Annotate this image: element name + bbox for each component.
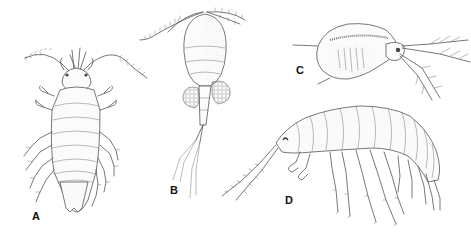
panel-label-a: A: [32, 211, 40, 222]
cladoceran-drawing: [293, 24, 470, 100]
copepod-drawing: [140, 8, 245, 198]
panel-label-d: D: [285, 195, 293, 206]
isopod-drawing: [24, 48, 147, 212]
panel-label-b: B: [170, 185, 178, 196]
illustration-canvas: [0, 0, 471, 235]
amphipod-drawing: [222, 106, 440, 226]
crustacean-illustration-figure: A B C D: [0, 0, 471, 235]
panel-label-c: C: [296, 65, 304, 76]
